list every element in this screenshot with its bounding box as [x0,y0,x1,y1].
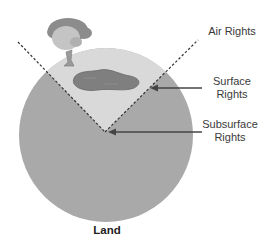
subsurface-rights-line1: Subsurface [197,118,263,131]
subsurface-rights-label: Subsurface Rights [197,118,263,144]
subsurface-rights-line2: Rights [197,131,263,144]
surface-rights-label: Surface Rights [203,75,261,101]
air-rights-label: Air Rights [200,25,264,38]
surface-rights-line2: Rights [203,88,261,101]
land-title: Land [85,224,129,236]
surface-rights-line1: Surface [203,75,261,88]
